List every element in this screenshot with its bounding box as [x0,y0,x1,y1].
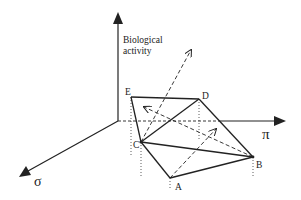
point-a-label: A [175,182,182,192]
point-b-label: B [256,160,262,170]
vector-c-up [141,50,191,142]
vertical-axis-label-line1: Biological [123,35,163,45]
sigma-axis [19,121,118,177]
down-left-arrow-icon [19,166,31,177]
point-d-label: D [202,91,209,101]
direction-vectors [141,50,253,178]
point-c-dot [139,140,142,143]
point-c-label: C [133,140,139,150]
up-arrow-icon [113,12,123,24]
pi-axis-label: π [262,126,270,142]
point-b-dot [252,156,255,159]
pi-axis [118,116,286,126]
point-e-label: E [125,87,131,97]
vertical-axis [113,12,123,121]
right-arrow-icon [274,116,286,126]
vector-a-up [170,129,216,178]
vertical-axis-label-line2: activity [123,46,152,56]
qsar-diagram: Biological activity π σ E D C B A [0,0,301,200]
sigma-axis-label: σ [34,174,42,189]
